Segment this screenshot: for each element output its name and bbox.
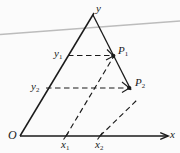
y-axis-label: y [96,3,101,14]
grey-guide-line [0,21,180,35]
y2-label: y2 [31,81,39,94]
y2-label-sub: 2 [36,86,39,93]
p2-label-base: P [135,76,142,88]
x1-oblique-dashed-line [66,56,114,136]
x-axis-label: x [170,129,175,140]
p1-label-sub: 1 [125,50,128,57]
origin-label: O [8,129,17,141]
p2-label-sub: 2 [142,82,145,89]
x1-label: x1 [61,139,69,152]
figure-canvas [0,0,180,153]
y1-label: y1 [54,48,62,61]
point-p2-marker [127,86,131,90]
p1-label: P1 [118,45,128,58]
p2-label: P2 [135,77,145,90]
point-p1-marker [111,54,115,58]
x2-label: x2 [95,139,103,152]
y-axis-line [20,13,94,136]
x2-oblique-dashed-line [100,99,138,136]
x2-label-sub: 2 [100,144,103,151]
y1-label-sub: 1 [59,53,62,60]
p1-label-base: P [118,44,125,56]
x1-label-sub: 1 [66,144,69,151]
geometry-figure: O x y x1 x2 y1 y2 P1 P2 [0,0,180,153]
